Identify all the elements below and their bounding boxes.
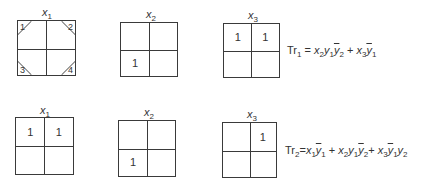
kmap-x2-bottom: 1	[118, 120, 176, 177]
map-label-x1-top: x1	[42, 6, 52, 21]
kmap-cell	[45, 146, 74, 174]
map-label-x2-bottom: x2	[144, 106, 154, 121]
kmap-cell: 1	[16, 118, 45, 146]
kmap-cell	[149, 50, 177, 77]
corner-diagonal-marks	[18, 21, 75, 75]
kmap-cell	[147, 149, 175, 177]
map-label-x2-top: x2	[146, 8, 156, 23]
kmap-cell	[147, 121, 175, 149]
map-label-x3-top: x3	[248, 9, 258, 24]
kmap-cell	[250, 150, 277, 177]
kmap-x1-top: 1 2 3 4	[17, 20, 76, 76]
corner-marker-3: 3	[20, 65, 25, 75]
corner-marker-1: 1	[20, 22, 25, 32]
kmap-cell	[223, 123, 250, 150]
kmap-cell	[252, 51, 280, 78]
kmap-x2-top: 1	[120, 22, 178, 77]
kmap-cell	[223, 150, 250, 177]
kmap-cell: 1	[224, 24, 252, 51]
kmap-cell	[224, 51, 252, 78]
kmap-cell	[16, 146, 45, 174]
kmap-cell: 1	[252, 24, 280, 51]
corner-marker-2: 2	[68, 22, 73, 32]
kmap-cell	[121, 23, 149, 50]
kmap-cell: 1	[45, 118, 74, 146]
formula-tr1: Tr1 = x2y1y2 + x3y1	[287, 44, 376, 59]
kmap-cell: 1	[121, 50, 149, 77]
formula-tr2: Tr2=x1y1 + x2y1y2+ x3y1y2	[285, 144, 408, 159]
kmap-cell: 1	[119, 149, 147, 177]
kmap-cell: 1	[250, 123, 277, 150]
kmap-cell	[149, 23, 177, 50]
kmap-cell	[119, 121, 147, 149]
kmap-x3-bottom: 1	[222, 122, 277, 178]
kmap-x1-bottom: 1 1	[15, 117, 74, 175]
kmap-x3-top: 1 1	[223, 23, 280, 78]
map-label-x3-bottom: x3	[247, 108, 257, 123]
corner-marker-4: 4	[68, 65, 73, 75]
